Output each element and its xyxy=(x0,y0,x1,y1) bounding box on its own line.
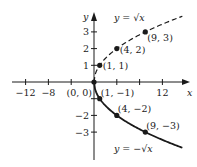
equation-label-neg-sqrt: y = −√x xyxy=(113,143,153,154)
y-axis-arrow-icon xyxy=(91,12,97,21)
point-label: (1, 1) xyxy=(103,60,129,71)
x-axis-label: x xyxy=(187,87,193,98)
x-axis-arrow-icon xyxy=(182,79,190,85)
x-tick-label: −8 xyxy=(41,87,55,98)
chart: x y −12−812321−2−3 y = √xy = −√x (0, 0)(… xyxy=(0,0,197,167)
y-tick-label: −3 xyxy=(75,127,89,138)
data-point xyxy=(91,79,96,84)
y-tick-label: 3 xyxy=(83,26,89,37)
point-label: (9, −3) xyxy=(146,120,180,131)
equation-label-sqrt: y = √x xyxy=(113,12,145,23)
y-tick-label: −2 xyxy=(75,110,89,121)
point-label: (0, 0) xyxy=(66,87,92,98)
y-tick-label: 1 xyxy=(83,60,89,71)
point-label: (4, 2) xyxy=(120,44,146,55)
y-axis-label: y xyxy=(82,11,89,22)
x-tick-label: 12 xyxy=(156,87,168,98)
point-label: (9, 3) xyxy=(147,32,173,43)
point-label: (1, −1) xyxy=(101,87,135,98)
data-point xyxy=(114,46,119,51)
x-tick-label: −12 xyxy=(16,87,36,98)
y-tick-label: 2 xyxy=(83,43,89,54)
data-point xyxy=(97,63,102,68)
point-label: (4, −2) xyxy=(118,103,152,114)
